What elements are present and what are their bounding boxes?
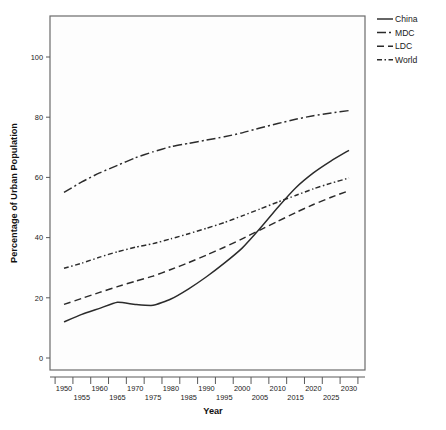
x-tick-label: 1965 <box>109 393 125 402</box>
x-tick-label: 1970 <box>127 384 143 393</box>
legend-label-ldc: LDC <box>395 41 412 51</box>
x-tick-label: 1975 <box>145 393 161 402</box>
x-tick-label: 2015 <box>287 393 303 402</box>
chart-figure: 020406080100 195019551960196519701975198… <box>0 0 446 430</box>
x-tick-label: 1955 <box>74 393 90 402</box>
x-tick-label: 1995 <box>216 393 232 402</box>
x-tick-label: 2020 <box>305 384 321 393</box>
y-tick-label: 40 <box>35 233 43 242</box>
x-tick-label: 2030 <box>341 384 357 393</box>
x-tick-label: 1950 <box>56 384 72 393</box>
y-axis: 020406080100 <box>31 53 50 363</box>
y-tick-label: 100 <box>31 53 43 62</box>
line-chart: 020406080100 195019551960196519701975198… <box>0 0 446 430</box>
legend-label-china: China <box>395 14 418 24</box>
x-tick-label: 1985 <box>180 393 196 402</box>
plot-area <box>50 16 365 370</box>
y-tick-label: 0 <box>39 354 43 363</box>
y-tick-label: 60 <box>35 173 43 182</box>
legend-label-mdc: MDC <box>395 28 415 38</box>
x-tick-label: 2000 <box>234 384 250 393</box>
x-tick-label: 2025 <box>323 393 339 402</box>
x-tick-label: 2010 <box>270 384 286 393</box>
legend-label-world: World <box>395 55 418 65</box>
x-tick-label: 2005 <box>252 393 268 402</box>
x-tick-label: 1960 <box>91 384 107 393</box>
y-tick-label: 80 <box>35 113 43 122</box>
y-tick-label: 20 <box>35 294 43 303</box>
x-tick-label: 1990 <box>198 384 214 393</box>
x-axis: 1950195519601965197019751980198519901995… <box>50 377 365 402</box>
y-axis-title: Percentage of Urban Population <box>9 123 19 263</box>
x-tick-label: 1980 <box>163 384 179 393</box>
x-axis-title: Year <box>203 406 223 416</box>
chart-legend: ChinaMDCLDCWorld <box>377 14 418 65</box>
